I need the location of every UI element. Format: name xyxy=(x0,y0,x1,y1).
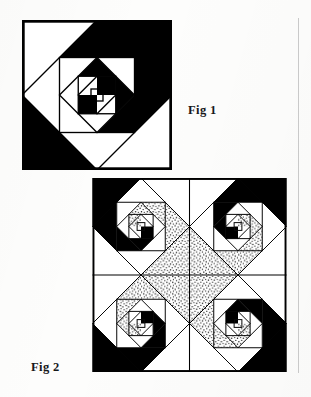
fig2-quadrant-bottom-right xyxy=(190,275,287,372)
figure-2 xyxy=(92,178,287,372)
fig2-quadrant-top-right xyxy=(190,178,287,275)
document-page: Fig 1 xyxy=(0,0,311,397)
fig1-ring-6 xyxy=(91,89,103,101)
figure-1 xyxy=(22,20,172,170)
fig2-quadrant-top-left xyxy=(93,178,190,275)
figure-1-caption: Fig 1 xyxy=(188,103,217,118)
figure-2-caption: Fig 2 xyxy=(31,360,60,375)
page-margin-rule xyxy=(298,18,299,373)
fig2-quadrant-bottom-left xyxy=(93,275,190,372)
